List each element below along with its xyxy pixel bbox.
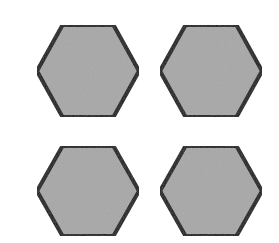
hexagon-grid-diagram: [0, 0, 279, 243]
hex-top-left-hexagon: [37, 25, 139, 117]
hex-top-right-hexagon: [160, 25, 262, 117]
shapes-layer: [37, 25, 262, 236]
hex-bottom-left-hexagon: [37, 146, 139, 236]
hex-bottom-right-hexagon: [160, 146, 262, 236]
